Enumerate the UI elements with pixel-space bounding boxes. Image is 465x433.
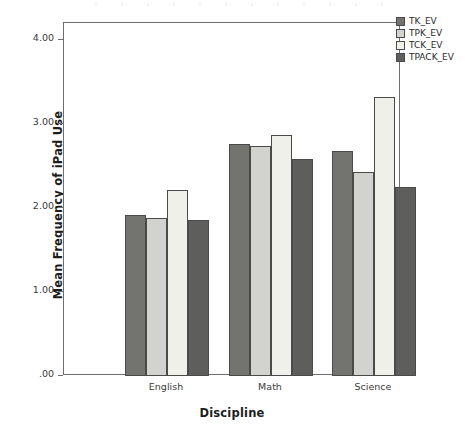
y-axis-tick-label: 1.00 — [33, 284, 54, 295]
legend-label-tk_ev: TK_EV — [409, 16, 437, 27]
x-axis-label-science: Science — [355, 381, 392, 392]
legend-item-tpk_ev: TPK_EV — [396, 28, 465, 39]
bar-english-tpk_ev — [146, 218, 167, 376]
legend-label-tck_ev: TCK_EV — [409, 40, 443, 51]
x-axis-label-english: English — [149, 381, 183, 392]
bar-science-tck_ev — [374, 97, 395, 376]
bar-science-tk_ev — [332, 151, 353, 376]
y-axis-tick-mark — [58, 39, 63, 40]
bar-math-tck_ev — [271, 135, 292, 376]
bar-english-tpack_ev — [188, 220, 209, 376]
bar-math-tk_ev — [229, 144, 250, 376]
legend-item-tk_ev: TK_EV — [396, 16, 465, 27]
legend-label-tpack_ev: TPACK_EV — [409, 52, 454, 63]
legend-swatch-tk_ev — [396, 17, 405, 26]
legend-swatch-tpk_ev — [396, 29, 405, 38]
bar-english-tk_ev — [125, 215, 146, 376]
chart-legend: TK_EVTPK_EVTCK_EVTPACK_EV — [396, 16, 465, 64]
legend-swatch-tpack_ev — [396, 53, 405, 62]
scan-artifact-line — [95, 3, 395, 6]
y-axis-tick-label: .00 — [39, 368, 54, 379]
legend-label-tpk_ev: TPK_EV — [409, 28, 442, 39]
y-axis-tick-mark — [58, 207, 63, 208]
bar-science-tpk_ev — [353, 172, 374, 376]
y-axis-tick-mark — [58, 291, 63, 292]
y-axis-tick-label: 4.00 — [33, 32, 54, 43]
legend-item-tpack_ev: TPACK_EV — [396, 52, 465, 63]
bar-chart: Mean Frequency of iPad Use .001.002.003.… — [0, 0, 465, 433]
x-axis-label-math: Math — [258, 381, 282, 392]
bar-math-tpk_ev — [250, 146, 271, 376]
y-axis-tick-label: 3.00 — [33, 116, 54, 127]
plot-area — [63, 22, 400, 375]
y-axis-tick-label: 2.00 — [33, 200, 54, 211]
y-axis-tick-mark — [58, 123, 63, 124]
bar-math-tpack_ev — [292, 159, 313, 376]
bar-science-tpack_ev — [395, 187, 416, 376]
legend-swatch-tck_ev — [396, 41, 405, 50]
x-axis-title: Discipline — [62, 406, 402, 420]
bar-english-tck_ev — [167, 190, 188, 376]
y-axis-tick-mark — [58, 375, 63, 376]
legend-item-tck_ev: TCK_EV — [396, 40, 465, 51]
